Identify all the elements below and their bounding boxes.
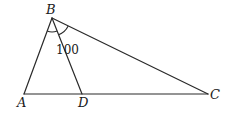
- label-a: A: [16, 95, 26, 110]
- angle-arc-abd: [47, 31, 57, 32]
- label-d: D: [77, 95, 89, 110]
- angle-arc-dbc: [59, 26, 69, 35]
- label-c: C: [210, 87, 220, 102]
- triangle-figure: B A D C 100: [0, 0, 226, 114]
- triangle-svg: B A D C 100: [0, 0, 226, 114]
- angle-label: 100: [56, 43, 79, 57]
- segment-ab: [24, 18, 52, 94]
- label-b: B: [45, 2, 56, 17]
